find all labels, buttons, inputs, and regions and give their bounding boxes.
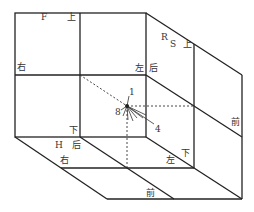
label-front-2: 前: [146, 189, 155, 198]
label-top: 上: [67, 13, 76, 22]
label-8: 8: [115, 108, 121, 117]
label-back: 后: [149, 64, 158, 73]
cube-diagram: F 上 右 R S 上 左 后 1 8 4 前 下 H 后 右 左 下 前: [0, 0, 254, 212]
label-S: S: [170, 40, 176, 49]
label-R: R: [161, 33, 168, 42]
label-back-2: 后: [72, 141, 81, 150]
hidden-lines: [80, 75, 194, 168]
label-F: F: [41, 13, 47, 22]
label-top-2: 上: [183, 40, 192, 49]
label-right-2: 右: [60, 156, 69, 165]
label-left: 左: [135, 64, 144, 73]
label-front: 前: [231, 118, 240, 127]
label-left-2: 左: [166, 156, 175, 165]
ray-fan: [121, 96, 154, 124]
label-right: 右: [17, 63, 26, 72]
label-4: 4: [155, 125, 161, 134]
label-H: H: [55, 141, 63, 150]
label-1: 1: [129, 88, 135, 97]
cube-lines: [0, 0, 254, 212]
label-bottom: 下: [69, 126, 78, 135]
label-bottom-2: 下: [181, 149, 190, 158]
center-point: [125, 104, 129, 108]
